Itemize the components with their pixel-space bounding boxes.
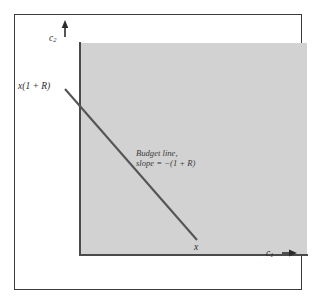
x-axis-line xyxy=(79,254,308,256)
x-axis-label-subscript: 1 xyxy=(270,251,273,258)
y-intercept-label: x(1 + R) xyxy=(18,81,50,92)
y-axis-label: c2 xyxy=(49,33,56,44)
y-axis-label-subscript: 2 xyxy=(53,36,56,43)
x-axis-label: c1 xyxy=(266,248,273,259)
budget-line-figure: c2 c1 x(1 + R) x Budget line, slope = −(… xyxy=(0,0,318,306)
y-axis-line xyxy=(79,42,81,256)
x-intercept-label: x xyxy=(194,242,198,253)
budget-line-annotation: Budget line, slope = −(1 + R) xyxy=(136,149,195,169)
budget-line-annotation-line-2: slope = −(1 + R) xyxy=(136,159,195,169)
